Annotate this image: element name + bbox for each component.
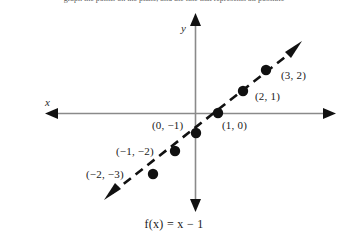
point-marker-neg1-neg2 bbox=[170, 146, 180, 156]
function-line-lower-arrowhead bbox=[104, 183, 121, 200]
y-axis-label: y bbox=[181, 22, 186, 34]
y-axis-top-arrowhead bbox=[190, 13, 201, 26]
point-label-neg1-neg2: (−1, −2) bbox=[116, 145, 154, 157]
point-label-2-1: (2, 1) bbox=[255, 90, 280, 102]
point-marker-1-0 bbox=[213, 108, 223, 118]
point-marker-3-2 bbox=[261, 65, 271, 75]
point-label-neg2-neg3: (−2, −3) bbox=[86, 168, 124, 180]
point-marker-0-neg1 bbox=[191, 128, 201, 138]
point-marker-neg2-neg3 bbox=[148, 169, 158, 179]
x-axis-left-arrowhead bbox=[45, 108, 58, 119]
x-axis-label: x bbox=[45, 96, 50, 108]
point-marker-2-1 bbox=[238, 86, 248, 96]
function-line-upper-arrowhead bbox=[285, 41, 302, 58]
figure-canvas: graph the points on the plane, and the l… bbox=[0, 0, 348, 241]
y-axis-bottom-arrowhead bbox=[190, 199, 201, 212]
function-equation-label: f(x) = x − 1 bbox=[0, 217, 348, 232]
x-axis-right-arrowhead bbox=[323, 108, 336, 119]
point-label-0-neg1: (0, −1) bbox=[152, 119, 183, 131]
point-label-3-2: (3, 2) bbox=[281, 69, 306, 81]
point-label-1-0: (1, 0) bbox=[222, 119, 247, 131]
